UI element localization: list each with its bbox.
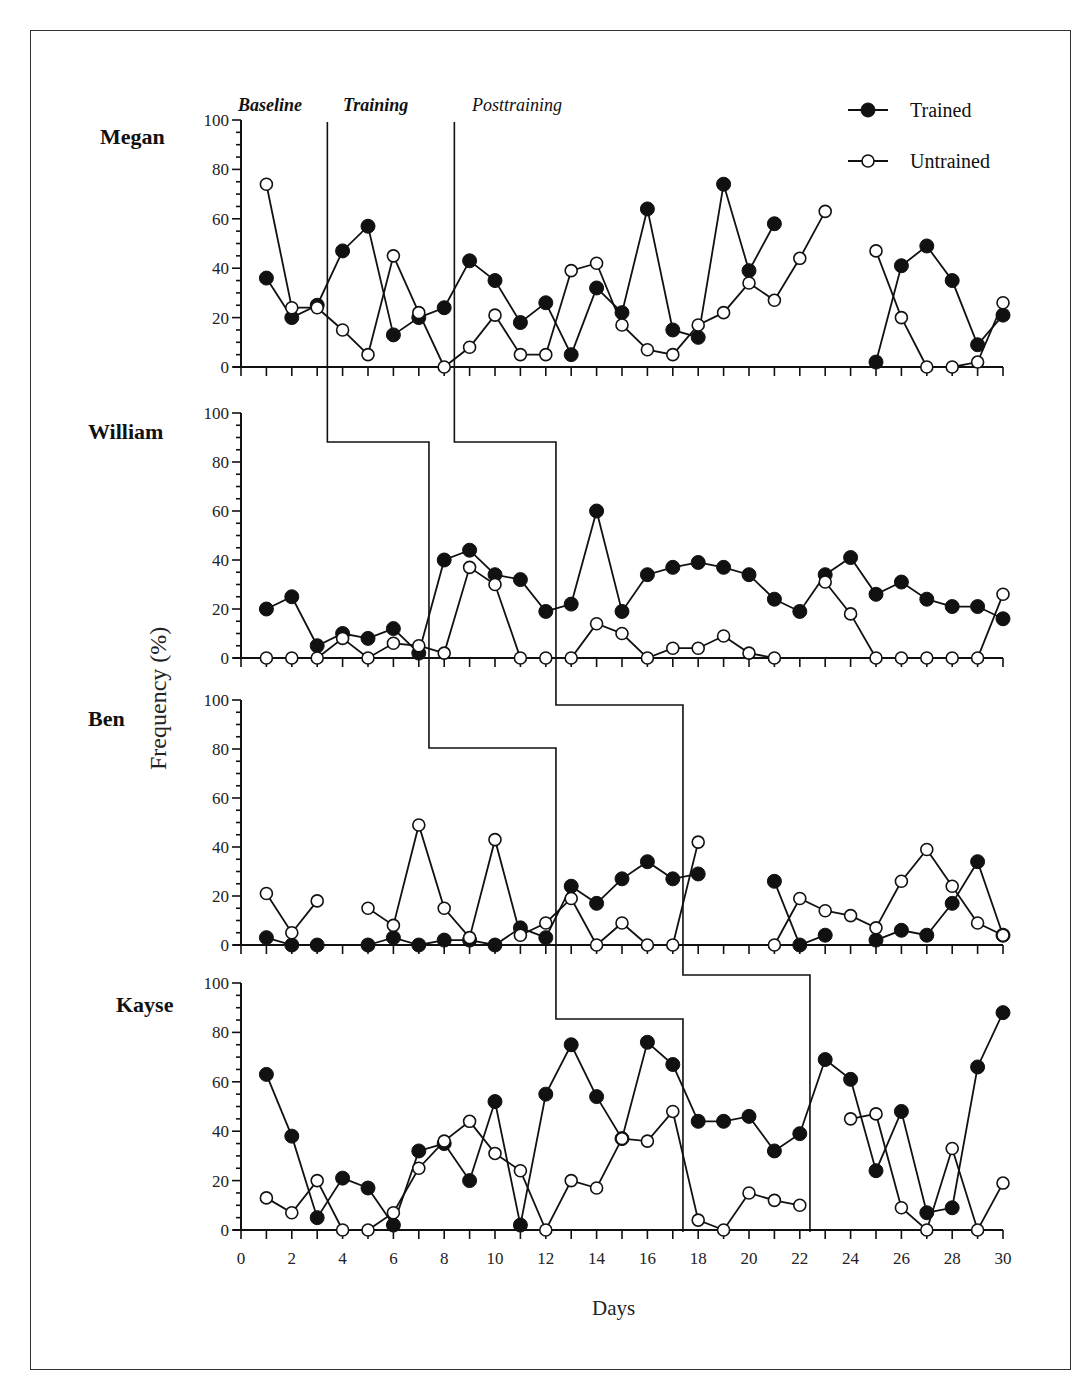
y-tick-label: 20 [212, 887, 229, 906]
data-point-untrained [387, 250, 399, 262]
x-tick-label: 24 [842, 1249, 860, 1268]
data-point-trained [386, 622, 400, 636]
data-point-trained [539, 1087, 553, 1101]
x-tick-label: 10 [487, 1249, 504, 1268]
series-line-trained [266, 511, 1003, 653]
data-point-trained [590, 1090, 604, 1104]
data-point-trained [336, 1171, 350, 1185]
data-point-trained [717, 560, 731, 574]
data-point-trained [615, 872, 629, 886]
y-tick-label: 100 [204, 111, 230, 130]
data-point-trained [336, 244, 350, 258]
data-point-untrained [946, 652, 958, 664]
data-point-trained [767, 1144, 781, 1158]
data-point-untrained [870, 1108, 882, 1120]
y-tick-label: 60 [212, 789, 229, 808]
data-point-untrained [946, 361, 958, 373]
data-point-untrained [895, 652, 907, 664]
data-point-untrained [667, 1105, 679, 1117]
data-point-trained [437, 933, 451, 947]
data-point-untrained [819, 905, 831, 917]
data-point-untrained [362, 349, 374, 361]
x-tick-label: 4 [338, 1249, 347, 1268]
x-tick-label: 2 [288, 1249, 297, 1268]
data-point-trained [971, 855, 985, 869]
x-axis-label: Days [592, 1296, 635, 1320]
data-point-trained [640, 855, 654, 869]
y-tick-label: 40 [212, 259, 229, 278]
data-point-untrained [895, 875, 907, 887]
data-point-untrained [972, 356, 984, 368]
data-point-trained [361, 938, 375, 952]
data-point-trained [818, 1053, 832, 1067]
series-line-trained [368, 862, 698, 945]
data-point-untrained [641, 344, 653, 356]
data-point-trained [285, 590, 299, 604]
filled-circle-marker-icon [861, 103, 875, 117]
series-line-trained [774, 881, 825, 945]
data-point-trained [717, 177, 731, 191]
data-point-trained [869, 1164, 883, 1178]
data-point-trained [894, 1104, 908, 1118]
open-circle-marker-icon [862, 155, 874, 167]
data-point-trained [767, 217, 781, 231]
data-point-untrained [946, 1142, 958, 1154]
data-point-trained [869, 933, 883, 947]
data-point-untrained [641, 1135, 653, 1147]
data-point-trained [488, 274, 502, 288]
data-point-trained [996, 612, 1010, 626]
data-point-trained [564, 348, 578, 362]
data-point-trained [971, 600, 985, 614]
data-point-untrained [667, 939, 679, 951]
data-point-untrained [464, 341, 476, 353]
data-point-untrained [946, 880, 958, 892]
series-line-untrained [266, 184, 825, 367]
data-point-untrained [743, 1187, 755, 1199]
data-point-untrained [362, 1224, 374, 1236]
data-point-trained [564, 1038, 578, 1052]
data-point-trained [945, 274, 959, 288]
panel-william: William020406080100 [88, 404, 1010, 668]
data-point-trained [463, 1174, 477, 1188]
data-point-trained [666, 323, 680, 337]
participant-name: Megan [100, 124, 165, 149]
data-point-trained [361, 631, 375, 645]
data-point-untrained [286, 652, 298, 664]
data-point-untrained [718, 1224, 730, 1236]
data-point-untrained [591, 1182, 603, 1194]
data-point-untrained [413, 1162, 425, 1174]
data-point-trained [437, 553, 451, 567]
data-point-untrained [718, 307, 730, 319]
x-tick-label: 12 [537, 1249, 554, 1268]
data-point-untrained [794, 1199, 806, 1211]
data-point-trained [463, 254, 477, 268]
data-point-untrained [387, 1207, 399, 1219]
data-point-untrained [794, 252, 806, 264]
data-point-trained [361, 219, 375, 233]
y-tick-label: 20 [212, 1172, 229, 1191]
data-point-untrained [260, 888, 272, 900]
data-point-trained [437, 301, 451, 315]
data-point-trained [793, 604, 807, 618]
x-tick-label: 22 [791, 1249, 808, 1268]
data-point-trained [691, 1114, 705, 1128]
data-point-trained [488, 1095, 502, 1109]
data-point-untrained [641, 652, 653, 664]
data-point-trained [590, 504, 604, 518]
data-point-trained [539, 931, 553, 945]
data-point-untrained [438, 361, 450, 373]
data-point-untrained [565, 265, 577, 277]
data-point-trained [386, 931, 400, 945]
data-point-trained [666, 560, 680, 574]
data-point-trained [310, 938, 324, 952]
data-point-untrained [845, 910, 857, 922]
data-point-trained [945, 600, 959, 614]
data-point-untrained [972, 652, 984, 664]
y-tick-label: 0 [221, 1221, 230, 1240]
data-point-untrained [870, 245, 882, 257]
data-point-trained [920, 928, 934, 942]
data-point-untrained [692, 1214, 704, 1226]
data-point-trained [666, 1058, 680, 1072]
panels: Megan020406080100William020406080100Ben0… [88, 111, 1012, 1268]
data-point-untrained [464, 932, 476, 944]
